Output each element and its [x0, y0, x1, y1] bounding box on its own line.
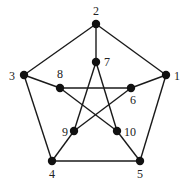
edge-7-10	[96, 62, 117, 131]
node-label-1: 1	[174, 69, 180, 83]
node-label-2: 2	[93, 4, 99, 18]
node-label-8: 8	[57, 67, 63, 81]
node-8	[56, 84, 64, 92]
node-layer	[20, 20, 170, 165]
edge-8-10	[60, 88, 117, 131]
node-9	[70, 127, 78, 135]
node-label-9: 9	[62, 125, 68, 139]
node-label-5: 5	[137, 167, 143, 181]
edge-3-8	[24, 75, 60, 88]
node-label-10: 10	[124, 125, 136, 139]
node-2	[92, 20, 100, 28]
edge-1-5	[140, 75, 166, 161]
label-layer: 12345678910	[9, 4, 180, 181]
petersen-graph-diagram: 12345678910	[0, 0, 189, 188]
node-label-4: 4	[49, 167, 55, 181]
node-4	[48, 157, 56, 165]
node-label-7: 7	[104, 55, 110, 69]
edge-layer	[24, 24, 166, 161]
node-1	[162, 71, 170, 79]
node-5	[136, 157, 144, 165]
edge-4-3	[24, 75, 52, 161]
node-label-3: 3	[9, 69, 15, 83]
node-label-6: 6	[130, 93, 136, 107]
edge-7-9	[74, 62, 96, 131]
node-3	[20, 71, 28, 79]
edge-6-9	[74, 88, 131, 131]
node-10	[113, 127, 121, 135]
node-7	[92, 58, 100, 66]
edge-1-6	[131, 75, 166, 88]
node-6	[127, 84, 135, 92]
